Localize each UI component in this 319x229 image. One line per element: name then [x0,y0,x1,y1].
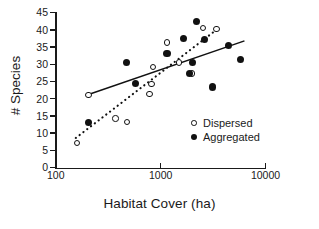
data-point-aggregated [123,59,130,66]
y-tick-mark [50,115,55,116]
y-tick-label: 5 [22,145,48,156]
data-point-dispersed [74,140,80,146]
data-point-aggregated [132,80,139,87]
data-point-aggregated [189,59,196,66]
data-point-dispersed [148,81,154,87]
legend-label: Aggregated [203,130,260,144]
data-point-aggregated [163,50,170,57]
legend-item-dispersed: Dispersed [191,116,260,130]
y-tick-mark [50,98,55,99]
legend: DispersedAggregated [191,116,260,144]
trendline-aggregated [88,41,244,95]
legend-label: Dispersed [203,116,253,130]
y-tick-label: 25 [22,76,48,87]
y-tick-mark [50,150,55,151]
y-tick-label: 40 [22,25,48,36]
data-point-dispersed [176,59,182,65]
y-tick-mark [50,81,55,82]
data-point-aggregated [201,36,208,43]
legend-item-aggregated: Aggregated [191,130,260,144]
x-tick-mark [265,163,266,168]
y-tick-label: 35 [22,42,48,53]
data-point-dispersed [124,119,130,125]
data-point-dispersed [112,115,118,121]
data-point-dispersed [150,64,156,70]
y-tick-label: 20 [22,94,48,105]
x-tick-mark [160,163,161,168]
y-tick-label: 15 [22,111,48,122]
x-axis-title: Habitat Cover (ha) [0,196,319,211]
y-axis-line [55,12,57,169]
y-tick-mark [50,132,55,133]
x-tick-label: 10000 [243,170,289,181]
data-point-dispersed [200,25,206,31]
data-point-dispersed [213,26,219,32]
y-axis-title: # Species [8,31,23,141]
x-tick-label: 100 [33,170,79,181]
y-tick-label: 10 [22,128,48,139]
data-point-dispersed [146,91,152,97]
data-point-dispersed [164,39,170,45]
legend-marker-icon [191,120,197,126]
data-point-dispersed [85,92,91,98]
data-point-aggregated [180,35,187,42]
y-tick-label: 30 [22,59,48,70]
x-tick-label: 1000 [138,170,184,181]
data-point-aggregated [209,83,216,90]
y-tick-label: 45 [22,7,48,18]
y-tick-mark [50,64,55,65]
legend-marker-icon [191,134,197,140]
data-point-aggregated [225,42,232,49]
data-point-aggregated [237,56,244,63]
y-tick-mark [50,12,55,13]
y-tick-mark [50,46,55,47]
scatter-chart: 051015202530354045 100100010000 Habitat … [0,0,319,229]
x-tick-mark [55,163,56,168]
data-point-aggregated [85,119,92,126]
data-point-aggregated [193,18,200,25]
y-tick-mark [50,29,55,30]
